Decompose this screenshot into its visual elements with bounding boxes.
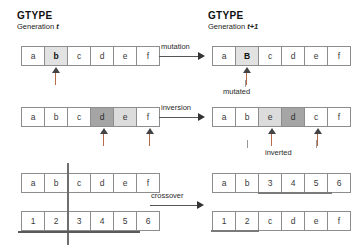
generation-value-left: t	[56, 22, 59, 31]
gene-cell: a	[21, 107, 45, 127]
gene-cell: 5	[113, 211, 137, 231]
gene-cell: e	[258, 107, 282, 127]
gene-cell: d	[90, 173, 114, 193]
chromosome-child-inverted: abedcf	[212, 107, 350, 127]
header-right: GTYPE Generation t+1	[208, 10, 258, 32]
gene-cell: 4	[281, 173, 305, 193]
gene-cell: 6	[136, 211, 160, 231]
gene-cell: e	[113, 107, 137, 127]
operator-label-mutation: mutation	[161, 42, 190, 51]
inversion-end-marker-right	[313, 128, 322, 146]
gene-cell: 1	[21, 211, 45, 231]
gene-cell: 3	[258, 173, 282, 193]
gtype-title-right: GTYPE	[208, 10, 258, 21]
chromosome-parent-mutation: abcdef	[21, 46, 159, 66]
gene-cell: f	[327, 46, 351, 66]
operator-label-inversion: inversion	[161, 103, 191, 112]
chromosome-parent-one: abcdef	[21, 173, 159, 193]
gene-cell: b	[44, 46, 68, 66]
caption-inverted: inverted	[265, 148, 292, 157]
gene-cell: b	[235, 173, 259, 193]
inverted-caption-tick-left	[247, 140, 248, 148]
gtype-title-left: GTYPE	[17, 10, 59, 21]
gene-cell: 4	[90, 211, 114, 231]
chromosome-child-mutated: aBcdef	[212, 46, 350, 66]
inversion-arrow	[159, 113, 206, 122]
gene-cell: B	[235, 46, 259, 66]
mutated-caption-tick	[245, 80, 246, 87]
inverted-caption-tick-right	[316, 140, 317, 148]
gene-cell: c	[258, 211, 282, 231]
child-two-segment-underline	[211, 230, 259, 232]
gene-cell: f	[327, 211, 351, 231]
gene-cell: b	[44, 173, 68, 193]
header-left: GTYPE Generation t	[17, 10, 59, 32]
generation-prefix-left: Generation	[17, 22, 56, 31]
gene-cell: c	[67, 107, 91, 127]
gene-cell: a	[21, 46, 45, 66]
mutation-site-marker-right	[242, 67, 251, 85]
gene-cell: f	[136, 46, 160, 66]
gene-cell: b	[44, 107, 68, 127]
gene-cell: e	[304, 46, 328, 66]
gene-cell: d	[90, 107, 114, 127]
generation-prefix-right: Generation	[208, 22, 247, 31]
gene-cell: d	[281, 107, 305, 127]
gene-cell: 2	[44, 211, 68, 231]
chromosome-parent-inversion: abcdef	[21, 107, 159, 127]
inversion-start-marker-left	[99, 128, 108, 146]
gene-cell: c	[67, 173, 91, 193]
gene-cell: 1	[212, 211, 236, 231]
gene-cell: c	[304, 107, 328, 127]
chromosome-child-two: 12cdef	[212, 211, 350, 231]
child-one-segment-underline	[258, 192, 332, 194]
gene-cell: 5	[304, 173, 328, 193]
operator-label-crossover: crossover	[151, 191, 184, 200]
generation-label-right: Generation t+1	[208, 22, 258, 32]
crossover-arrow	[150, 201, 206, 210]
gene-cell: a	[21, 173, 45, 193]
gene-cell: e	[113, 173, 137, 193]
gene-cell: e	[113, 46, 137, 66]
gene-cell: 6	[327, 173, 351, 193]
gene-cell: d	[281, 46, 305, 66]
gene-cell: f	[136, 173, 160, 193]
mutation-site-marker-left	[51, 67, 60, 85]
gene-cell: a	[212, 173, 236, 193]
gene-cell: d	[90, 46, 114, 66]
gene-cell: a	[212, 46, 236, 66]
caption-mutated: mutated	[223, 87, 250, 96]
gene-cell: c	[258, 46, 282, 66]
mutation-arrow	[159, 52, 206, 61]
inversion-start-marker-right	[267, 128, 276, 146]
gene-cell: a	[212, 107, 236, 127]
gene-cell: c	[67, 46, 91, 66]
gene-cell: f	[327, 107, 351, 127]
gene-cell: e	[304, 211, 328, 231]
generation-value-right: t+1	[247, 22, 258, 31]
chromosome-parent-two: 123456	[21, 211, 159, 231]
gene-cell: f	[136, 107, 160, 127]
chromosome-child-one: ab3456	[212, 173, 350, 193]
generation-label-left: Generation t	[17, 22, 59, 32]
gene-cell: d	[281, 211, 305, 231]
inversion-end-marker-left	[145, 128, 154, 146]
gene-cell: b	[235, 107, 259, 127]
parent-two-underline	[18, 231, 140, 233]
diagram-canvas: GTYPE Generation t GTYPE Generation t+1 …	[0, 0, 353, 248]
gene-cell: 2	[235, 211, 259, 231]
gene-cell: 3	[67, 211, 91, 231]
